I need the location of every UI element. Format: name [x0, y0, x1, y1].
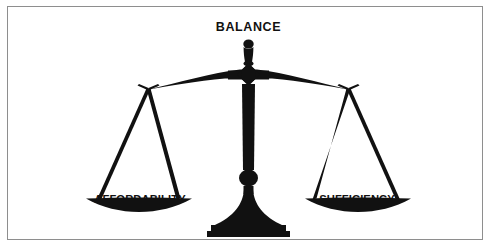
pivot-ornament [237, 63, 260, 86]
left-suspension-cords [97, 84, 181, 200]
figure-title: BALANCE [0, 20, 497, 34]
center-column [242, 84, 255, 170]
balance-scale-graphic [0, 0, 497, 252]
left-pan-label: AFFORDABILITY [45, 193, 235, 205]
base-plinth [207, 225, 290, 237]
right-pan-label: SUFFICIENCY [262, 193, 452, 205]
balance-scale-figure: BALANCE AFFORDABILITY SUFFICIENCY [0, 0, 497, 252]
finial-knob-icon [243, 39, 253, 66]
right-suspension-cords [313, 84, 401, 200]
